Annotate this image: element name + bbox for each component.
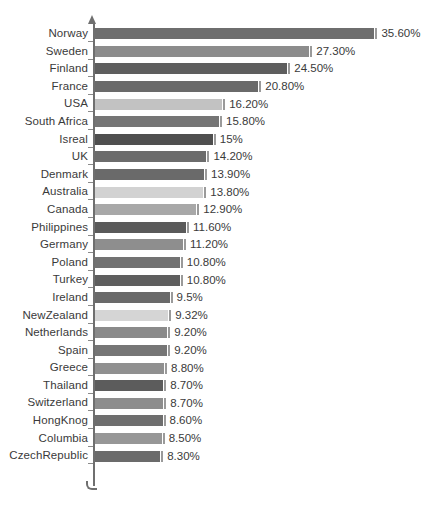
value-label: 10.80%: [187, 257, 226, 268]
bar-and-value: 11.60%: [95, 219, 231, 237]
bar-row: Isreal15%: [0, 131, 431, 149]
category-label: Canada: [47, 201, 88, 219]
value-label: 9.20%: [174, 327, 207, 338]
bar-end-cap: [259, 81, 261, 92]
bar-chart: Norway35.60%Sweden27.30%Finland24.50%Fra…: [0, 0, 431, 508]
category-label: CzechRepublic: [9, 447, 88, 465]
bar[interactable]: [95, 116, 219, 127]
category-label: Netherlands: [25, 324, 88, 342]
bar-end-cap: [168, 327, 170, 338]
bar-row: USA16.20%: [0, 95, 431, 113]
category-label: Australia: [42, 183, 88, 201]
bar[interactable]: [95, 292, 170, 303]
bar-end-cap: [207, 151, 209, 162]
bar-end-cap: [164, 398, 166, 409]
bar-and-value: 12.90%: [95, 201, 242, 219]
bar-and-value: 8.70%: [95, 377, 203, 395]
bar-row: France20.80%: [0, 78, 431, 96]
bar[interactable]: [95, 275, 180, 286]
value-label: 24.50%: [294, 63, 333, 74]
bar[interactable]: [95, 345, 167, 356]
bar-row: Denmark13.90%: [0, 166, 431, 184]
bar[interactable]: [95, 187, 203, 198]
value-label: 14.20%: [213, 151, 252, 162]
bar[interactable]: [95, 81, 258, 92]
bar-row: Spain9.20%: [0, 342, 431, 360]
category-label: Isreal: [59, 131, 88, 149]
bar[interactable]: [95, 204, 196, 215]
bar-row: Sweden27.30%: [0, 43, 431, 61]
bar-and-value: 27.30%: [95, 43, 355, 61]
value-label: 27.30%: [316, 46, 355, 57]
bar-end-cap: [197, 204, 199, 215]
bar[interactable]: [95, 415, 163, 426]
bar[interactable]: [95, 169, 204, 180]
category-label: Denmark: [41, 166, 88, 184]
bar-end-cap: [310, 46, 312, 57]
bar[interactable]: [95, 363, 164, 374]
plot-area: Norway35.60%Sweden27.30%Finland24.50%Fra…: [0, 0, 431, 508]
bar[interactable]: [95, 28, 374, 39]
bar-and-value: 8.30%: [95, 447, 200, 465]
bar[interactable]: [95, 63, 287, 74]
value-label: 12.90%: [203, 204, 242, 215]
bar-and-value: 9.20%: [95, 324, 207, 342]
value-label: 8.70%: [170, 398, 203, 409]
category-label: Columbia: [39, 430, 88, 448]
value-label: 9.32%: [175, 310, 208, 321]
bar-row: CzechRepublic8.30%: [0, 447, 431, 465]
bar[interactable]: [95, 327, 167, 338]
category-label: Spain: [58, 342, 88, 360]
value-label: 10.80%: [187, 275, 226, 286]
bar[interactable]: [95, 239, 183, 250]
bar-row: Philippines11.60%: [0, 219, 431, 237]
bar[interactable]: [95, 310, 168, 321]
bar-and-value: 9.32%: [95, 307, 208, 325]
bar-and-value: 14.20%: [95, 148, 252, 166]
bar[interactable]: [95, 380, 163, 391]
value-label: 8.70%: [170, 380, 203, 391]
bar-and-value: 11.20%: [95, 236, 228, 254]
bar-and-value: 10.80%: [95, 271, 226, 289]
bar[interactable]: [95, 99, 222, 110]
value-label: 15.80%: [226, 116, 265, 127]
bar-row: Switzerland8.70%: [0, 394, 431, 412]
bar-and-value: 13.90%: [95, 166, 250, 184]
bar-end-cap: [164, 415, 166, 426]
bar-row: Canada12.90%: [0, 201, 431, 219]
category-label: NewZealand: [22, 307, 88, 325]
bar-end-cap: [214, 134, 216, 145]
bar-end-cap: [164, 380, 166, 391]
bar[interactable]: [95, 398, 163, 409]
bar-end-cap: [220, 116, 222, 127]
bar[interactable]: [95, 433, 162, 444]
bar-end-cap: [165, 363, 167, 374]
bar[interactable]: [95, 257, 180, 268]
bar[interactable]: [95, 151, 206, 162]
bar-and-value: 15.80%: [95, 113, 265, 131]
bar-and-value: 8.60%: [95, 412, 202, 430]
bar-end-cap: [169, 310, 171, 321]
bar-and-value: 8.70%: [95, 394, 203, 412]
value-label: 8.30%: [167, 451, 200, 462]
bar-end-cap: [171, 292, 173, 303]
value-label: 11.20%: [190, 239, 228, 250]
value-label: 8.60%: [170, 415, 203, 426]
bar-rows: Norway35.60%Sweden27.30%Finland24.50%Fra…: [0, 25, 431, 465]
bar[interactable]: [95, 222, 186, 233]
bar-end-cap: [204, 187, 206, 198]
bar[interactable]: [95, 46, 309, 57]
bar-end-cap: [187, 222, 189, 233]
bar-and-value: 8.80%: [95, 359, 204, 377]
value-label: 13.80%: [210, 187, 249, 198]
bar-row: NewZealand9.32%: [0, 307, 431, 325]
bar[interactable]: [95, 134, 213, 145]
bar-end-cap: [288, 63, 290, 74]
bar-row: Australia13.80%: [0, 183, 431, 201]
bar-row: Ireland9.5%: [0, 289, 431, 307]
bar-end-cap: [375, 28, 377, 39]
bar-row: Greece8.80%: [0, 359, 431, 377]
bar-and-value: 9.5%: [95, 289, 203, 307]
value-label: 9.5%: [177, 292, 203, 303]
bar[interactable]: [95, 451, 160, 462]
